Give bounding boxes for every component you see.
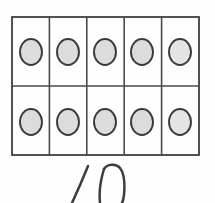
ten-frame-figure — [0, 0, 215, 203]
handwritten-answer — [72, 165, 124, 203]
handwritten-digit-zero-left — [100, 169, 104, 203]
counter-circle — [94, 109, 116, 135]
counter-circle — [131, 39, 153, 65]
counter-circle — [20, 109, 42, 135]
handwritten-digit-zero-right — [104, 165, 124, 203]
worksheet-canvas: 10 10 — [0, 0, 215, 203]
counter-circle — [131, 109, 153, 135]
counter-circle — [57, 109, 79, 135]
counter-circle — [169, 39, 191, 65]
counter-circle — [57, 39, 79, 65]
counter-circle — [20, 39, 42, 65]
handwritten-digit-one — [72, 166, 88, 203]
counter-circle — [94, 39, 116, 65]
counter-circle — [169, 109, 191, 135]
